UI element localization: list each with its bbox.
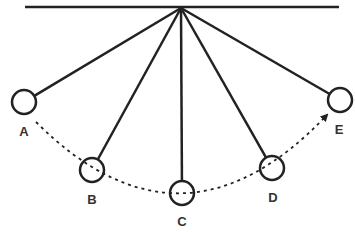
string-c: [181, 8, 182, 181]
bob-e: [328, 88, 352, 112]
string-b: [98, 8, 181, 159]
bob-a: [12, 90, 36, 114]
pendulum-diagram: ABCDE: [0, 0, 355, 232]
label-c: C: [177, 214, 187, 229]
label-d: D: [268, 190, 277, 205]
string-d: [181, 8, 266, 158]
label-a: A: [19, 124, 29, 139]
pendulum-svg: ABCDE: [0, 0, 355, 232]
label-e: E: [335, 122, 344, 137]
string-e: [181, 8, 330, 94]
label-b: B: [87, 192, 96, 207]
strings: [34, 8, 329, 181]
string-a: [34, 8, 181, 96]
bob-b: [80, 158, 104, 182]
